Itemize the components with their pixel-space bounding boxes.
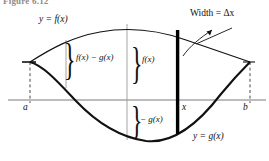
axis-label-b: b [243,103,248,113]
brace-label-lower: − g(x) [140,115,163,124]
representative-strip [176,30,179,134]
brace-label-difference: f(x) − g(x) [76,53,114,62]
figure-area-between-curves: Figure 6.12 } } } y = f(x) y = g(x) Widt… [0,0,269,161]
width-leader-crossline [196,28,232,44]
brace-upper: } [131,40,143,85]
curve-label-g: y = g(x) [193,132,224,142]
axis-label-x: x [182,103,186,113]
curve-label-f: y = f(x) [39,15,68,25]
brace-difference: } [64,38,76,82]
width-annotation: Width = Δx [190,9,234,19]
axis-label-a: a [23,103,28,113]
brace-label-upper: f(x) [142,55,155,64]
